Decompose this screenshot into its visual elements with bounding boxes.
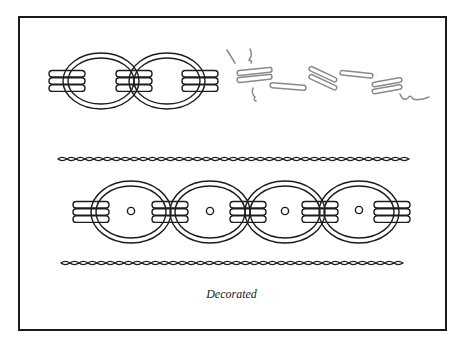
collar (230, 202, 266, 223)
rivet-dot (127, 207, 134, 214)
decorated-chain-link-1 (91, 181, 171, 243)
decorated-chain (73, 181, 410, 243)
twisted-rope-upper (58, 157, 409, 160)
top-chain (49, 53, 218, 109)
top-chain-link-1 (63, 53, 139, 109)
rivet-dot (281, 207, 288, 214)
faded-sketch (227, 49, 429, 101)
rivet-dot (355, 206, 362, 213)
decorated-chain-link-4 (319, 181, 399, 243)
top-chain-link-2 (129, 53, 205, 109)
figure-caption: Decorated (0, 287, 463, 302)
twisted-rope-lower (61, 261, 403, 264)
collar (49, 71, 85, 92)
rivet-dot (206, 207, 213, 214)
decorated-chain-link-3 (245, 181, 325, 243)
decorated-chain-link-2 (170, 181, 250, 243)
